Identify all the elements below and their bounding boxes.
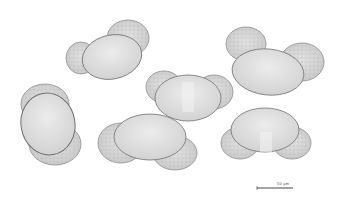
pollen-grain-top-left	[66, 20, 149, 85]
pollen-grain-bottom-right	[221, 108, 311, 159]
pollen-grains-illustration	[0, 0, 351, 199]
scale-bar-label: 50 µm	[277, 181, 289, 186]
pollen-grain-left	[16, 84, 81, 165]
scale-bar	[257, 186, 293, 190]
pollen-grain-center	[146, 71, 233, 121]
pollen-grain-top-right	[226, 27, 324, 99]
micrograph: 50 µm	[0, 0, 351, 199]
pollen-grain-bottom-center	[98, 114, 197, 170]
